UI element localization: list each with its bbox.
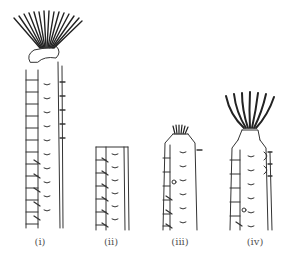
cup-tentacle-crown-icon [226,92,274,128]
tentacle-crown-icon [14,11,82,48]
specimen-iv-drawing [226,92,274,230]
specimen-iii-drawing [163,125,202,230]
label-specimen-i: (i) [25,236,55,247]
label-specimen-iii: (iii) [165,236,195,247]
specimen-ii-drawing [96,147,129,230]
small-tentacle-tuft-icon [173,125,188,134]
tube-worm-figure [0,0,290,261]
label-specimen-iv: (iv) [240,236,270,247]
label-specimen-ii: (ii) [96,236,126,247]
specimen-i-drawing [14,11,82,228]
